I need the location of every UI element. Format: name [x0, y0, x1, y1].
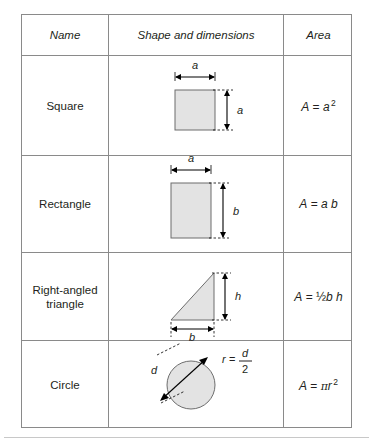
- circle-shape: [167, 361, 215, 409]
- circle-figure: d r = d 2: [109, 341, 283, 428]
- header-label-shape: Shape and dimensions: [138, 29, 255, 41]
- rectangle-shape: [171, 183, 211, 238]
- shape-diagram-cell-rectangle: a b: [109, 156, 284, 252]
- dimension-arrow-top-rectangle: [171, 167, 211, 173]
- dimension-label-b-right: b: [233, 205, 239, 217]
- page-separator-rule: [4, 437, 369, 438]
- dimension-label-a-right: a: [237, 104, 243, 116]
- area-formula-circle: A = πr2: [299, 377, 338, 393]
- shape-name-triangle: Right-angledtriangle: [32, 283, 97, 311]
- radius-annotation-denominator: 2: [242, 363, 248, 375]
- area-formula-triangle: A = ½b h: [294, 290, 342, 304]
- area-formula-square: A = a2: [301, 98, 336, 114]
- shape-name-cell-circle: Circle: [22, 341, 109, 428]
- header-label-area: Area: [306, 29, 330, 41]
- header-cell-area: Area: [284, 15, 353, 55]
- table-row-square: Square a: [22, 56, 351, 156]
- dimension-label-h-right: h: [235, 290, 241, 302]
- square-shape: [175, 90, 215, 130]
- shape-diagram-cell-triangle: h b: [109, 253, 284, 340]
- dimension-label-a-top: a: [188, 152, 194, 164]
- radius-annotation-numerator: d: [242, 347, 249, 359]
- shape-name-square: Square: [46, 99, 83, 113]
- shape-name-circle: Circle: [50, 378, 79, 392]
- table-row-circle: Circle d r: [22, 341, 351, 428]
- radius-annotation-equals: =: [229, 353, 235, 365]
- geometry-reference-table: Name Shape and dimensions Area Square: [21, 14, 352, 428]
- radius-annotation-lhs: r: [222, 353, 227, 365]
- rectangle-figure: a b: [109, 156, 283, 252]
- triangle-shape: [171, 273, 214, 320]
- shape-name-rectangle: Rectangle: [39, 197, 91, 211]
- table-header-row: Name Shape and dimensions Area: [22, 15, 351, 56]
- header-cell-shape: Shape and dimensions: [109, 15, 284, 55]
- dimension-label-d-diameter: d: [151, 364, 158, 376]
- dimension-arrow-right-square: [224, 90, 230, 130]
- dimension-arrow-right-rectangle: [220, 183, 226, 238]
- shape-name-cell-square: Square: [22, 56, 109, 155]
- dimension-arrow-right-triangle: [222, 273, 228, 320]
- triangle-figure: h b: [109, 253, 283, 340]
- table-row-right-angled-triangle: Right-angledtriangle h: [22, 253, 351, 341]
- area-cell-circle: A = πr2: [284, 341, 353, 428]
- area-cell-rectangle: A = a b: [284, 156, 353, 252]
- radius-annotation: r = d 2: [222, 347, 252, 375]
- header-cell-name: Name: [22, 15, 109, 55]
- dimension-arrow-top-square: [175, 74, 215, 80]
- shape-name-cell-triangle: Right-angledtriangle: [22, 253, 109, 340]
- dimension-label-a-top: a: [192, 59, 198, 71]
- shape-name-cell-rectangle: Rectangle: [22, 156, 109, 252]
- square-figure: a a: [109, 56, 283, 155]
- area-cell-square: A = a2: [284, 56, 353, 155]
- area-formula-rectangle: A = a b: [299, 197, 337, 211]
- shape-diagram-cell-square: a a: [109, 56, 284, 155]
- shape-diagram-cell-circle: d r = d 2: [109, 341, 284, 428]
- area-cell-triangle: A = ½b h: [284, 253, 353, 340]
- header-label-name: Name: [50, 29, 81, 41]
- table-row-rectangle: Rectangle a: [22, 156, 351, 253]
